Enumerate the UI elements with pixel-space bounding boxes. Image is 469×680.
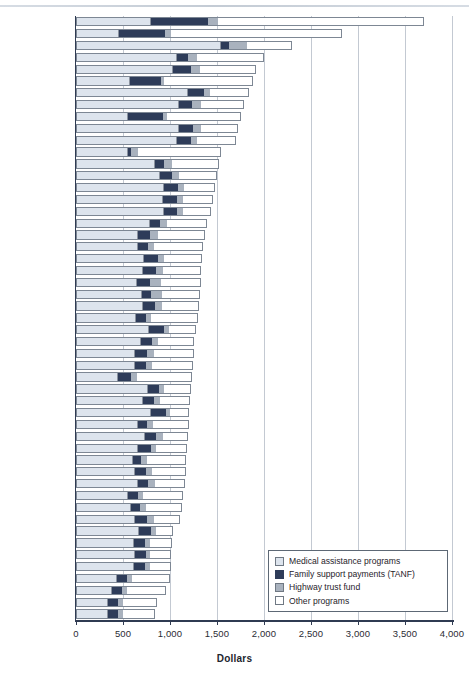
- bar-segment-highway: [127, 575, 132, 582]
- bar-segment-tanf: [221, 42, 229, 49]
- bar-segment-highway: [178, 184, 184, 191]
- bar-segment-highway: [193, 125, 201, 132]
- bar-row: Maryland: [76, 454, 452, 466]
- stacked-bar: [76, 349, 194, 358]
- bar-segment-medical: [77, 231, 138, 238]
- tick-label-1500: 1,500: [205, 628, 229, 639]
- stacked-bar: [76, 17, 424, 26]
- stacked-bar: [76, 420, 189, 429]
- bar-segment-medical: [77, 362, 135, 369]
- bar-segment-highway: [208, 18, 218, 25]
- bar-segment-medical: [77, 326, 149, 333]
- legend-label-highway: Highway trust fund: [289, 582, 360, 592]
- bar-row: Louisiana: [76, 182, 452, 194]
- bar-row: Iowa: [76, 442, 452, 454]
- bar-segment-tanf: [160, 172, 172, 179]
- bar-segment-tanf: [188, 89, 204, 96]
- bar-segment-tanf: [131, 504, 140, 511]
- tick-mark-0: [76, 620, 77, 625]
- bar-row: Indiana: [76, 537, 452, 549]
- legend-item-other: Other programs: [275, 596, 441, 606]
- x-axis-title: Dollars: [0, 653, 469, 664]
- bar-segment-highway: [160, 220, 167, 227]
- bar-segment-highway: [191, 66, 200, 73]
- bar-segment-medical: [77, 302, 143, 309]
- bar-segment-medical: [77, 255, 144, 262]
- legend-swatch-tanf-icon: [275, 570, 284, 579]
- tick-mark-2000: [264, 620, 265, 625]
- bar-segment-tanf: [134, 563, 145, 570]
- bar-row: South Dakota: [76, 111, 452, 123]
- chart-figure: AlaskaWyomingNew YorkNew MexicoVermontNo…: [0, 0, 469, 680]
- tick-mark-1000: [170, 620, 171, 625]
- bar-segment-highway: [191, 137, 197, 144]
- bar-segment-highway: [146, 468, 153, 475]
- bar-segment-medical: [77, 279, 137, 286]
- bar-segment-tanf: [141, 338, 152, 345]
- bar-segment-tanf: [163, 196, 177, 203]
- bar-segment-tanf: [135, 350, 147, 357]
- legend-swatch-highway-icon: [275, 583, 284, 592]
- bar-row: New Hampshire: [76, 490, 452, 502]
- bar-segment-medical: [77, 89, 188, 96]
- bar-segment-tanf: [130, 77, 161, 84]
- bar-segment-medical: [77, 575, 117, 582]
- bar-segment-medical: [77, 480, 138, 487]
- bar-segment-medical: [77, 291, 142, 298]
- bar-segment-tanf: [137, 279, 150, 286]
- bar-segment-medical: [77, 66, 173, 73]
- tick-mark-3000: [358, 620, 359, 625]
- stacked-bar: [76, 53, 264, 62]
- bar-segment-highway: [192, 101, 200, 108]
- bar-segment-highway: [122, 587, 127, 594]
- bar-row: Illinois: [76, 502, 452, 514]
- bar-row: Nebraska: [76, 395, 452, 407]
- bar-segment-tanf: [145, 433, 157, 440]
- bar-segment-tanf: [112, 587, 122, 594]
- bar-segment-tanf: [177, 54, 188, 61]
- bar-segment-tanf: [128, 113, 163, 120]
- bar-segment-highway: [172, 172, 179, 179]
- bar-row: Texas: [76, 513, 452, 525]
- tick-label-3000: 3,000: [346, 628, 370, 639]
- bar-segment-highway: [164, 160, 172, 167]
- stacked-bar: [76, 124, 238, 133]
- bar-segment-highway: [146, 551, 151, 558]
- stacked-bar: [76, 88, 249, 97]
- bar-row: Montana: [76, 146, 452, 158]
- bar-segment-tanf: [138, 445, 151, 452]
- bar-segment-medical: [77, 54, 177, 61]
- stacked-bar: [76, 313, 198, 322]
- bar-row: Arizona: [76, 300, 452, 312]
- stacked-bar: [76, 598, 157, 607]
- bar-segment-highway: [158, 255, 164, 262]
- bar-segment-medical: [77, 30, 119, 37]
- bar-segment-tanf: [143, 267, 156, 274]
- tick-label-4000: 4,000: [440, 628, 464, 639]
- bar-segment-medical: [77, 492, 128, 499]
- tick-mark-4000: [452, 620, 453, 625]
- bar-segment-medical: [77, 516, 135, 523]
- bar-segment-medical: [77, 148, 128, 155]
- bar-row: Alaska: [76, 16, 452, 28]
- stacked-bar: [76, 230, 205, 239]
- bar-segment-medical: [77, 338, 141, 345]
- stacked-bar: [76, 538, 172, 547]
- bar-segment-tanf: [139, 527, 152, 534]
- stacked-bar: [76, 242, 203, 251]
- bar-row: North Carolina: [76, 383, 452, 395]
- bar-segment-highway: [141, 456, 147, 463]
- stacked-bar: [76, 219, 207, 228]
- legend-label-tanf: Family support payments (TANF): [289, 569, 415, 579]
- bar-segment-tanf: [151, 18, 207, 25]
- stacked-bar: [76, 526, 173, 535]
- bar-segment-medical: [77, 551, 135, 558]
- bar-segment-medical: [77, 208, 164, 215]
- stacked-bar: [76, 408, 189, 417]
- bar-segment-tanf: [133, 456, 141, 463]
- stacked-bar: [76, 290, 200, 299]
- bar-segment-tanf: [150, 220, 160, 227]
- bar-segment-medical: [77, 504, 131, 511]
- bar-row: Oklahoma: [76, 229, 452, 241]
- tick-mark-1500: [217, 620, 218, 625]
